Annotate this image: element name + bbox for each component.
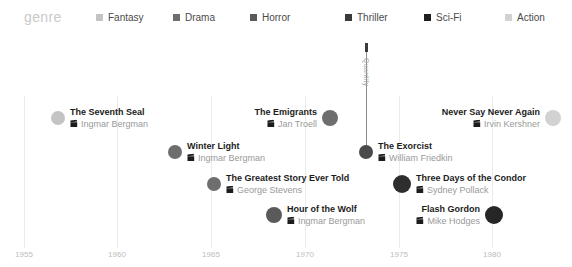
point-annotation: Never Say Never AgainIrvin Kershner [442,107,540,130]
point-annotation: Flash GordonMike Hodges [416,204,480,227]
quantity-axis-cap [365,43,368,52]
y-axis-label: Quantity [363,58,370,86]
legend-item-label: Action [517,12,545,23]
legend-item-label: Drama [185,12,215,23]
point-annotation: The ExorcistWilliam Friedkin [378,141,453,164]
film-director-row: Sydney Pollack [416,184,526,196]
film-director-row: Jan Troell [254,118,317,130]
film-director-row: Ingmar Bergman [70,118,148,130]
film-director-row: Irvin Kershner [442,118,540,130]
legend-item-drama[interactable]: Drama [173,12,215,23]
point-annotation: Three Days of the CondorSydney Pollack [416,173,526,196]
film-title: The Exorcist [378,141,453,152]
x-tick-label: 1970 [296,250,314,259]
film-director-row: Mike Hodges [416,215,480,227]
point-annotation: Hour of the WolfIngmar Bergman [287,204,365,227]
data-point[interactable] [359,145,373,159]
film-director: Jan Troell [278,118,317,130]
data-point[interactable] [207,177,221,191]
film-director: Ingmar Bergman [81,118,148,130]
film-director-row: Ingmar Bergman [187,152,265,164]
point-annotation: The Greatest Story Ever ToldGeorge Steve… [226,173,349,196]
legend-item-action[interactable]: Action [505,12,545,23]
legend-item-label: Horror [262,12,290,23]
clapperboard-icon [416,186,424,194]
clapperboard-icon [267,120,275,128]
data-point[interactable] [51,111,65,125]
legend-item-label: Fantasy [108,12,144,23]
point-annotation: The EmigrantsJan Troell [254,107,317,130]
clapperboard-icon [378,154,386,162]
legend-swatch-icon [505,14,512,21]
data-point[interactable] [168,145,182,159]
film-director-row: William Friedkin [378,152,453,164]
gridline [211,96,212,248]
film-title: Three Days of the Condor [416,173,526,184]
legend-item-horror[interactable]: Horror [250,12,290,23]
legend-swatch-icon [424,14,431,21]
x-tick-label: 1960 [108,250,126,259]
legend-item-label: Sci-Fi [436,12,462,23]
data-point[interactable] [545,110,561,126]
film-title: Hour of the Wolf [287,204,365,215]
film-director: William Friedkin [389,152,453,164]
clapperboard-icon [226,186,234,194]
clapperboard-icon [70,120,78,128]
data-point[interactable] [485,206,503,224]
film-title: Never Say Never Again [442,107,540,118]
film-director: Ingmar Bergman [198,152,265,164]
genre-legend: genre FantasyDramaHorrorThrillerSci-FiAc… [0,0,572,34]
point-annotation: The Seventh SealIngmar Bergman [70,107,148,130]
x-tick-label: 1955 [15,250,33,259]
film-title: The Emigrants [254,107,317,118]
legend-swatch-icon [345,14,352,21]
legend-title: genre [24,9,62,25]
x-tick-label: 1965 [202,250,220,259]
clapperboard-icon [473,120,481,128]
film-title: Winter Light [187,141,265,152]
film-director: Irvin Kershner [484,118,540,130]
film-director-row: George Stevens [226,184,349,196]
legend-item-sci-fi[interactable]: Sci-Fi [424,12,462,23]
film-title: The Seventh Seal [70,107,148,118]
legend-item-label: Thriller [357,12,388,23]
film-title: The Greatest Story Ever Told [226,173,349,184]
data-point[interactable] [322,110,338,126]
data-point[interactable] [393,175,411,193]
film-director: Mike Hodges [427,215,480,227]
legend-item-fantasy[interactable]: Fantasy [96,12,144,23]
x-tick-label: 1980 [483,250,501,259]
film-director: Ingmar Bergman [298,215,365,227]
legend-swatch-icon [173,14,180,21]
legend-item-thriller[interactable]: Thriller [345,12,388,23]
legend-swatch-icon [250,14,257,21]
film-title: Flash Gordon [416,204,480,215]
x-tick-label: 1975 [390,250,408,259]
clapperboard-icon [416,217,424,225]
film-director-row: Ingmar Bergman [287,215,365,227]
film-director: George Stevens [237,184,302,196]
gridline [24,96,25,248]
legend-swatch-icon [96,14,103,21]
clapperboard-icon [187,154,195,162]
clapperboard-icon [287,217,295,225]
gridline [399,96,400,248]
data-point[interactable] [266,207,282,223]
film-director: Sydney Pollack [427,184,489,196]
point-annotation: Winter LightIngmar Bergman [187,141,265,164]
timeline-plot: 195519601965197019751980 Quantity The Se… [0,34,572,267]
